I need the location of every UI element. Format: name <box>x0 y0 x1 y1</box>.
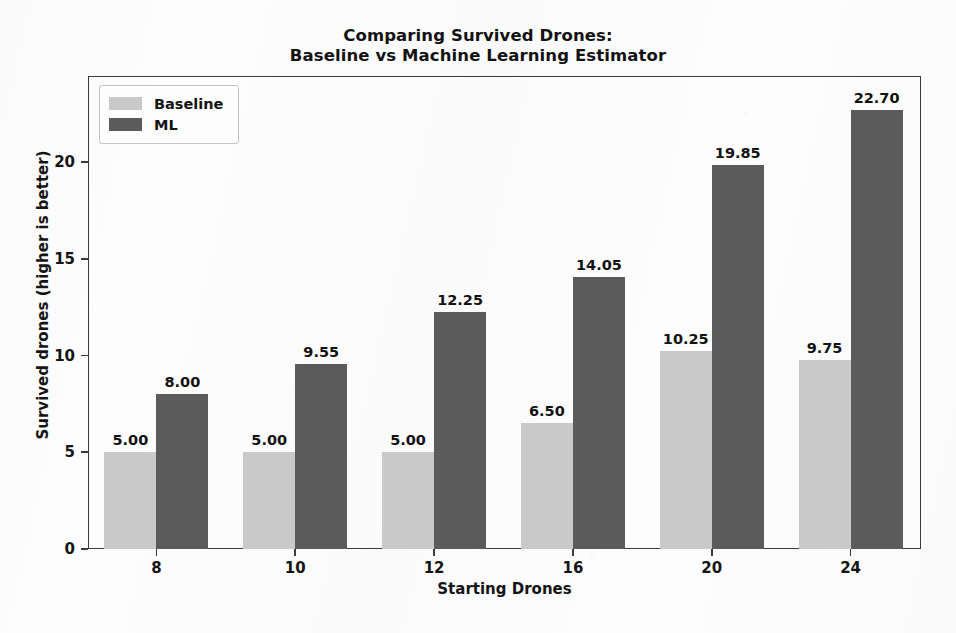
chart-title: Comparing Survived Drones: Baseline vs M… <box>0 26 956 66</box>
chart-figure: Comparing Survived Drones: Baseline vs M… <box>0 0 956 633</box>
x-tick-mark <box>156 549 158 556</box>
y-axis-label: Survived drones (higher is better) <box>34 85 52 505</box>
y-tick-label: 5 <box>65 442 75 462</box>
bar-ml-16[interactable] <box>573 277 625 549</box>
bar-value-ml-24: 22.70 <box>837 90 917 106</box>
x-tick-mark <box>711 549 713 556</box>
y-tick-mark <box>81 355 88 357</box>
bar-baseline-24[interactable] <box>799 360 851 549</box>
baseline-swatch-icon <box>109 97 142 110</box>
x-tick-label: 16 <box>533 559 613 577</box>
x-tick-label: 12 <box>394 559 474 577</box>
chart-title-line-2: Baseline vs Machine Learning Estimator <box>0 46 956 66</box>
chart-title-line-1: Comparing Survived Drones: <box>0 26 956 46</box>
y-tick-label: 15 <box>54 249 75 269</box>
bar-value-ml-20: 19.85 <box>698 145 778 161</box>
y-tick-mark <box>81 548 88 550</box>
x-tick-mark <box>294 549 296 556</box>
x-tick-mark <box>572 549 574 556</box>
x-tick-label: 24 <box>811 559 891 577</box>
y-tick-label: 0 <box>65 539 75 559</box>
y-tick-mark <box>81 161 88 163</box>
bar-baseline-10[interactable] <box>243 452 295 549</box>
legend-label-ml: ML <box>154 117 178 133</box>
x-tick-label: 8 <box>116 559 196 577</box>
ml-swatch-icon <box>109 118 142 131</box>
bar-ml-24[interactable] <box>851 110 903 549</box>
bar-ml-12[interactable] <box>434 312 486 549</box>
bar-value-ml-10: 9.55 <box>281 344 361 360</box>
bar-ml-10[interactable] <box>295 364 347 549</box>
bar-value-ml-8: 8.00 <box>142 374 222 390</box>
bar-ml-8[interactable] <box>156 394 208 549</box>
x-tick-mark <box>433 549 435 556</box>
chart-legend: Baseline ML <box>99 85 239 144</box>
bar-baseline-12[interactable] <box>382 452 434 549</box>
y-tick-label: 20 <box>54 152 75 172</box>
y-tick-mark <box>81 258 88 260</box>
bar-baseline-8[interactable] <box>104 452 156 549</box>
x-tick-label: 10 <box>255 559 335 577</box>
bar-ml-20[interactable] <box>712 165 764 549</box>
bar-value-ml-12: 12.25 <box>420 292 500 308</box>
plot-area: 5.005.005.006.5010.259.758.009.5512.2514… <box>88 76 921 549</box>
x-tick-label: 20 <box>672 559 752 577</box>
bar-value-ml-16: 14.05 <box>559 257 639 273</box>
y-tick-label: 10 <box>54 346 75 366</box>
x-axis-label: Starting Drones <box>88 580 921 598</box>
bar-baseline-16[interactable] <box>521 423 573 549</box>
y-tick-mark <box>81 451 88 453</box>
legend-item-baseline[interactable]: Baseline <box>109 93 229 114</box>
x-tick-mark <box>850 549 852 556</box>
legend-label-baseline: Baseline <box>154 96 223 112</box>
bar-baseline-20[interactable] <box>660 351 712 549</box>
legend-item-ml[interactable]: ML <box>109 114 229 135</box>
